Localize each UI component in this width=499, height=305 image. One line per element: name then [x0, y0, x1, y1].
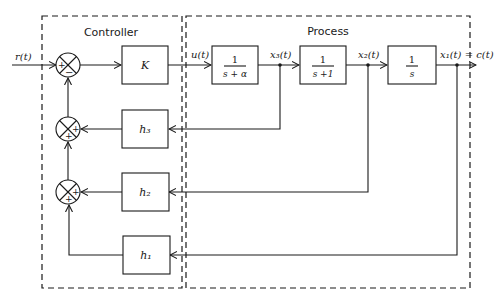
- sj3-plus-bottom: +: [65, 194, 73, 204]
- h2-label: h₂: [139, 186, 151, 199]
- tf1-numerator: 1: [232, 54, 238, 65]
- x3-signal-label: x₃(t): [270, 49, 292, 60]
- h3-label: h₃: [139, 123, 151, 136]
- sj2-plus-right: +: [72, 124, 80, 134]
- gain-label: K: [140, 59, 150, 72]
- tf3-denominator: s: [410, 69, 415, 79]
- tf2-denominator: s +1: [313, 69, 334, 79]
- tf1-denominator: s + α: [223, 69, 247, 79]
- h1-label: h₁: [140, 249, 152, 262]
- x1-feedback-path: [170, 65, 457, 255]
- block-diagram: Controller Process r(t) + − K u(t) 1 s +…: [0, 0, 499, 305]
- sj1-minus-sign: −: [65, 67, 73, 78]
- tf3-numerator: 1: [409, 54, 415, 65]
- summing-junction-3: + +: [56, 180, 80, 204]
- controller-label: Controller: [84, 26, 139, 39]
- output-signal-label: x₁(t) = c(t): [440, 49, 494, 60]
- h1-to-sj3-path: [69, 205, 123, 255]
- summing-junction-1: + −: [56, 53, 80, 78]
- x2-signal-label: x₂(t): [358, 49, 380, 60]
- summing-junction-2: + +: [56, 117, 80, 141]
- control-signal-label: u(t): [191, 49, 209, 60]
- sj2-plus-bottom: +: [65, 131, 73, 141]
- tf2-numerator: 1: [320, 54, 326, 65]
- sj3-plus-right: +: [72, 187, 80, 197]
- input-signal-label: r(t): [15, 51, 32, 62]
- process-label: Process: [307, 25, 349, 38]
